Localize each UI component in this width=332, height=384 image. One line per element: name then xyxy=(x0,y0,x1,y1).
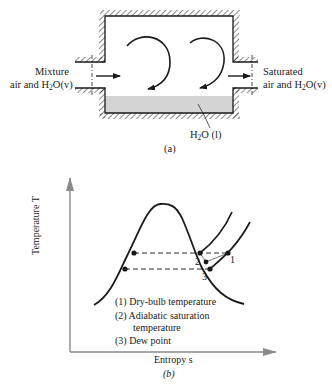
outlet-bottom-hatch xyxy=(233,88,258,93)
inlet-bottom-hatch xyxy=(75,88,105,93)
outlet-label-line2: air and H2O(v) xyxy=(263,79,326,94)
point-2-label: 2 xyxy=(195,256,200,268)
y-axis-label: Temperature T xyxy=(30,196,42,255)
point-1-label: 1 xyxy=(230,254,235,266)
outlet-label-line1: Saturated xyxy=(263,66,303,78)
point-3-label: 3 xyxy=(202,271,207,283)
outlet-label-suffix: O(v) xyxy=(306,79,326,90)
inlet-top-hatch xyxy=(75,57,105,62)
point-sat-upper xyxy=(197,250,202,255)
x-axis-label: Entropy s xyxy=(154,354,193,366)
liquid-label-prefix: H xyxy=(190,129,198,140)
top-wall-hatch xyxy=(100,10,240,16)
bottom-wall-hatch xyxy=(100,113,240,119)
left-upper-wall-hatch xyxy=(99,16,105,63)
inlet-label-line1: Mixture xyxy=(35,66,69,78)
outlet-label-prefix: air and H xyxy=(263,79,302,90)
legend-item-1: (1) Dry-bulb temperature xyxy=(115,296,216,308)
outlet-top-hatch xyxy=(233,57,258,62)
swirl-arrow-right xyxy=(190,38,224,88)
inlet-label-suffix: O(v) xyxy=(53,79,73,90)
legend-item-2-cont: temperature xyxy=(133,322,181,334)
point-liquid-lower xyxy=(122,266,127,271)
point-liquid-upper xyxy=(131,250,136,255)
isobar-upper xyxy=(200,212,232,253)
liquid-label: H2O (l) xyxy=(190,129,221,144)
right-upper-wall-hatch xyxy=(233,16,239,63)
inlet-label-line2: air and H2O(v) xyxy=(10,79,73,94)
liquid-label-suffix: O (l) xyxy=(201,129,221,140)
point-2 xyxy=(204,260,209,265)
point-3 xyxy=(207,266,212,271)
water-pool xyxy=(105,96,233,113)
inlet-label-prefix: air and H xyxy=(10,79,49,90)
legend-item-2: (2) Adiabatic saturation xyxy=(115,310,209,322)
caption-b: (b) xyxy=(163,368,175,380)
saturation-dome xyxy=(94,204,244,305)
swirl-arrow-left xyxy=(127,37,170,89)
chamber xyxy=(75,10,258,128)
caption-a: (a) xyxy=(164,143,176,155)
legend-item-3: (3) Dew point xyxy=(115,335,171,347)
